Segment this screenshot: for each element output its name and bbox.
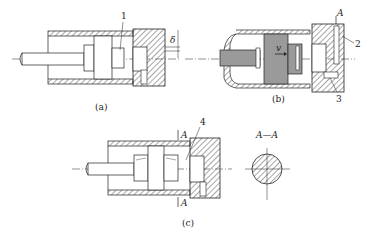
callout-4: 4 [200, 117, 206, 127]
caption-c: (c) [182, 218, 194, 228]
section-marker-b: A [336, 8, 344, 18]
section-marker-c-bottom: A [180, 198, 188, 208]
callout-1: 1 [121, 11, 127, 21]
panel-c: A A 4 A—A (c) [72, 117, 290, 228]
section-view-title: A—A [255, 130, 278, 140]
delta-symbol: δ [170, 35, 175, 45]
caption-b: (b) [272, 94, 285, 104]
panel-b: v A 2 3 (b) [185, 8, 361, 104]
caption-a: (a) [95, 102, 107, 112]
panel-a: 1 δ (a) [12, 11, 180, 112]
velocity-symbol: v [276, 43, 281, 53]
cylinder-cushioning-diagram: 1 δ (a) v A 2 3 (b) [0, 0, 373, 234]
callout-3: 3 [336, 94, 342, 104]
section-marker-c-top: A [180, 130, 188, 140]
callout-2: 2 [355, 39, 361, 49]
